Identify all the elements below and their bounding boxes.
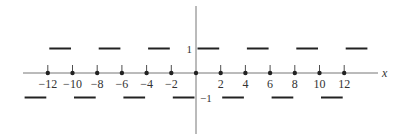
tick-dot [194, 71, 198, 75]
x-tick-label: −10 [63, 77, 82, 91]
x-tick-label: 12 [338, 77, 350, 91]
axes [23, 6, 378, 134]
x-tick-label: −12 [38, 77, 57, 91]
y-tick-label-1: 1 [187, 43, 193, 55]
x-tick-label: 2 [218, 77, 224, 91]
x-tick-label: −6 [116, 77, 129, 91]
tick-dot [95, 71, 99, 75]
tick-dot [342, 71, 346, 75]
tick-dot [268, 71, 272, 75]
square-wave-plot: −12−10−8−6−4−2246810121−1x [0, 0, 404, 136]
tick-dot [293, 71, 297, 75]
y-tick-label-neg1: −1 [200, 92, 212, 104]
chart-canvas: −12−10−8−6−4−2246810121−1x [0, 0, 404, 136]
tick-dot [144, 71, 148, 75]
x-tick-label: 4 [242, 77, 248, 91]
x-axis-label: x [381, 66, 388, 80]
x-tick-label: −8 [91, 77, 104, 91]
tick-dot [219, 71, 223, 75]
tick-dot [243, 71, 247, 75]
tick-dot [70, 71, 74, 75]
x-tick-label: 6 [267, 77, 273, 91]
tick-dot [46, 71, 50, 75]
x-tick-label: −2 [165, 77, 178, 91]
x-tick-label: −4 [140, 77, 153, 91]
x-tick-label: 8 [292, 77, 298, 91]
tick-dot [120, 71, 124, 75]
tick-dot [169, 71, 173, 75]
x-tick-label: 10 [314, 77, 326, 91]
tick-dot [317, 71, 321, 75]
